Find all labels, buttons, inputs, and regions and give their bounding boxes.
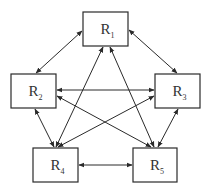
edge-r2-r5 (57, 96, 151, 147)
edge-r1-r4 (56, 47, 103, 147)
node-r5: R5 (133, 148, 177, 182)
node-r3: R3 (155, 74, 200, 108)
nodes-layer: R1R2R3R4R5 (11, 12, 200, 182)
edge-r3-r4 (58, 96, 154, 147)
node-r1: R1 (83, 12, 128, 46)
edge-r1-r5 (110, 47, 154, 147)
edge-r2-r4 (35, 109, 54, 147)
relationship-diagram: R1R2R3R4R5 (0, 0, 211, 191)
node-r4: R4 (33, 148, 78, 182)
edge-r1-r2 (36, 31, 82, 73)
edge-r3-r5 (158, 109, 178, 147)
node-r2: R2 (11, 74, 56, 108)
edge-r1-r3 (129, 30, 177, 73)
